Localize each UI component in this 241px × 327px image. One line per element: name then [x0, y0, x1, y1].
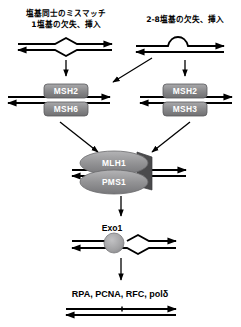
right-dna-duplex-loop	[136, 37, 224, 52]
complex-msh2-msh6[interactable]: MSH2 MSH6	[8, 84, 110, 116]
right-pathway-label-line1: 2-8塩基の欠失、挿入	[146, 14, 224, 24]
exo1-label: Exo1	[102, 223, 123, 233]
exo1-dna-upper-right	[127, 235, 176, 241]
mmr-pathway-diagram: 塩基同士のミスマッチ 1塩基の欠失、挿入 2-8塩基の欠失、挿入 MSH2 MS…	[0, 0, 241, 327]
repair-factors-label: RPA, PCNA, RFC, polδ	[72, 289, 169, 299]
arrow-diagonal-right-to-left	[113, 58, 152, 82]
msh2-label-left: MSH2	[54, 86, 79, 96]
arrow-msh26-to-mlh1	[60, 122, 98, 152]
msh6-label: MSH6	[54, 104, 79, 114]
left-pathway-label-line1: 塩基同士のミスマッチ	[26, 8, 106, 18]
pathway-canvas: 塩基同士のミスマッチ 1塩基の欠失、挿入 2-8塩基の欠失、挿入 MSH2 MS…	[0, 0, 241, 327]
msh2-label-right: MSH2	[173, 86, 198, 96]
exo1-step[interactable]: Exo1	[72, 223, 176, 254]
complex-msh2-msh3[interactable]: MSH2 MSH3	[140, 84, 232, 116]
exo1-dna-lower	[72, 248, 176, 254]
msh3-label: MSH3	[173, 104, 198, 114]
left-pathway-label-line2: 1塩基の欠失、挿入	[31, 19, 100, 29]
left-dna-duplex-mismatch	[18, 38, 112, 56]
pms1-label: PMS1	[102, 177, 126, 187]
mlh1-label: MLH1	[102, 158, 126, 168]
complex-mlh1-pms1[interactable]: MLH1 PMS1	[72, 151, 186, 194]
arrow-msh23-to-mlh1	[152, 122, 190, 152]
repaired-dna-duplex	[66, 307, 176, 316]
exo1-circle[interactable]	[104, 233, 124, 253]
